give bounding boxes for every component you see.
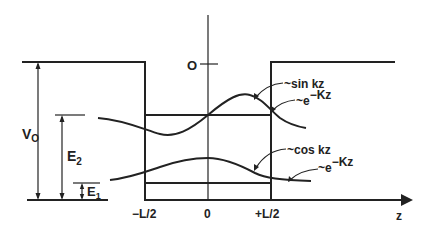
e1-arrow — [80, 183, 84, 200]
exp-lower-leader — [290, 169, 318, 180]
origin-energy-label: O — [187, 58, 197, 73]
v0-label: VO — [22, 126, 39, 144]
exp-upper-leader — [273, 100, 295, 110]
tick-label-zero: 0 — [204, 207, 211, 221]
wavefunction-e1 — [110, 158, 311, 181]
e2-arrow — [60, 115, 65, 200]
exp-lower-annotation: ~e−Kz — [318, 155, 353, 175]
exp-upper-annotation: ~e−Kz — [296, 88, 331, 108]
potential-well-diagram: O VO E2 E1 −L/2 0 +L/2 z ~sin kz ~e−Kz ~… — [0, 0, 426, 232]
z-axis-arrow-icon — [401, 194, 413, 206]
tick-label-plus-half-l: +L/2 — [255, 207, 280, 221]
z-axis-label: z — [396, 209, 402, 223]
tick-label-minus-half-l: −L/2 — [132, 207, 157, 221]
e2-label: E2 — [67, 148, 82, 167]
v0-arrow — [36, 62, 41, 200]
e1-label: E1 — [87, 184, 101, 201]
cos-annotation: ~cos kz — [287, 143, 331, 157]
sin-leader — [256, 83, 283, 97]
